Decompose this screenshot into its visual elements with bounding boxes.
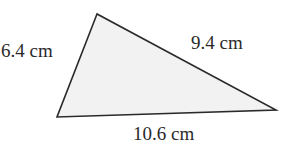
side-label-bottom: 10.6 cm [133,124,194,143]
triangle-diagram: 6.4 cm 9.4 cm 10.6 cm [0,0,282,147]
side-label-upper-right: 9.4 cm [191,33,243,52]
triangle [57,14,276,117]
side-label-left: 6.4 cm [1,41,53,60]
